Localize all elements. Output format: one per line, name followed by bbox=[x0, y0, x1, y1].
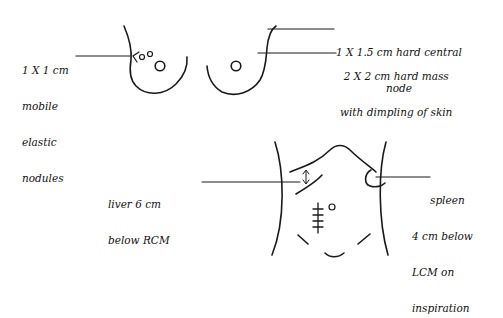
liver-annotation: liver 6 cm below RCM bbox=[108, 174, 170, 258]
hard-mass-annotation: 2 X 2 cm hard mass with dimpling of skin bbox=[340, 46, 452, 130]
left-nipple-icon bbox=[155, 61, 165, 71]
nodule-marker-icon bbox=[133, 52, 139, 62]
left-breast bbox=[76, 26, 187, 93]
right-nipple-icon bbox=[231, 61, 241, 71]
nodule-icon bbox=[148, 52, 153, 57]
umbilicus-icon bbox=[329, 204, 335, 210]
spleen-outline bbox=[366, 170, 385, 187]
annotation-line: 2 X 2 cm hard mass bbox=[340, 70, 452, 82]
annotation-line: nodules bbox=[22, 172, 69, 184]
annotation-line: below RCM bbox=[108, 234, 170, 246]
nodules-annotation: 1 X 1 cm mobile elastic nodules bbox=[22, 40, 69, 196]
annotation-line: mobile bbox=[22, 100, 69, 112]
annotation-line: 4 cm below bbox=[412, 230, 473, 242]
right-breast bbox=[207, 26, 336, 94]
spleen-annotation: spleen 4 cm below LCM on inspiration bbox=[412, 170, 473, 318]
annotation-line: elastic bbox=[22, 136, 69, 148]
annotation-line: 1 X 1 cm bbox=[22, 64, 69, 76]
annotation-line: spleen bbox=[412, 194, 473, 206]
annotation-line: inspiration bbox=[412, 302, 473, 314]
abdomen bbox=[202, 142, 430, 257]
annotation-line: with dimpling of skin bbox=[340, 106, 452, 118]
surgical-scar-icon bbox=[313, 203, 323, 233]
annotation-line: LCM on bbox=[412, 266, 473, 278]
nodule-icon bbox=[140, 55, 145, 60]
liver-span-arrow-icon bbox=[303, 170, 309, 184]
annotation-line: liver 6 cm bbox=[108, 198, 170, 210]
